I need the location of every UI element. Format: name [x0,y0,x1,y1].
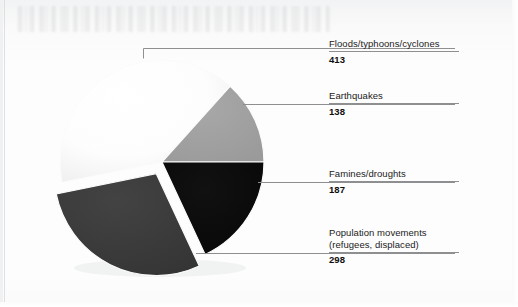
pie-label-value: 413 [329,54,459,66]
pie-label-text-line1: Population movements [329,227,459,239]
pie-label-text-line2: (refugees, displaced) [329,239,459,251]
pie-label-floods-typhoons-cyclones: Floods/typhoons/cyclones 413 [329,38,459,65]
pie-label-value: 138 [329,106,459,118]
pie-label-value: 187 [329,184,459,196]
chart-figure: Floods/typhoons/cyclones 413 Earthquakes… [0,0,518,307]
pie-label-value: 298 [329,254,459,266]
pie-label-text: Earthquakes [329,90,459,102]
pie-label-earthquakes: Earthquakes 138 [329,90,459,117]
pie-label-rule [329,252,459,253]
pie-label-rule [329,181,459,182]
pie-label-rule [329,51,459,52]
pie-label-text: Famines/droughts [329,168,459,180]
pie-label-famines-droughts: Famines/droughts 187 [329,168,459,195]
pie-label-population-movements: Population movements (refugees, displace… [329,227,459,266]
pie-label-rule [329,103,459,104]
pie-label-text: Floods/typhoons/cyclones [329,38,459,50]
